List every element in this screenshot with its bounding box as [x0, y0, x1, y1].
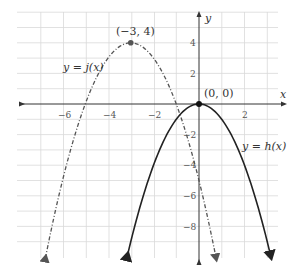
- y-tick-labels: 4 2 −2 −4 −6 −8: [183, 38, 197, 232]
- x-tick-label: 2: [242, 110, 248, 120]
- y-axis-label: y: [204, 12, 212, 25]
- curve-label-h: y = h(x): [241, 140, 286, 153]
- y-tick-label: −8: [183, 222, 197, 232]
- vertex-label-j: (−3, 4): [116, 25, 155, 38]
- vertex-point-j: [128, 40, 134, 46]
- coordinate-plane: x y −6 −4 −2 2 4 2 −2 −4 −6 −8 (−3, 4) (…: [0, 0, 306, 273]
- y-tick-label: −2: [183, 130, 196, 140]
- x-tick-label: −6: [58, 110, 72, 120]
- y-tick-label: 2: [190, 69, 196, 79]
- y-tick-label: −6: [183, 191, 197, 201]
- curve-label-j: y = j(x): [62, 61, 104, 74]
- vertex-point-h: [196, 101, 202, 107]
- grid-lines: [17, 12, 278, 258]
- x-tick-label: −4: [103, 110, 117, 120]
- y-tick-label: 4: [190, 38, 196, 48]
- x-tick-label: −2: [148, 110, 161, 120]
- vertex-label-h: (0, 0): [204, 87, 234, 100]
- x-axis-label: x: [280, 88, 287, 101]
